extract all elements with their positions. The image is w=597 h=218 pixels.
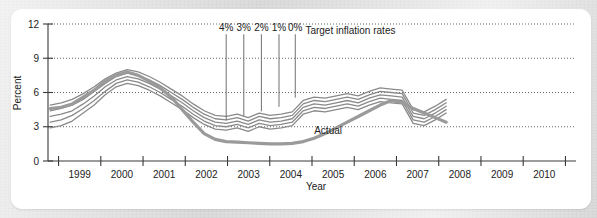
y-tick-label: 12 bbox=[28, 19, 40, 30]
y-tick-group: 036912 bbox=[28, 19, 53, 167]
y-tick-label: 0 bbox=[33, 156, 39, 167]
x-tick-label: 2003 bbox=[238, 169, 261, 180]
series-line-actual bbox=[50, 72, 446, 144]
target-marker-label: 4% bbox=[219, 22, 234, 33]
x-tick-label: 2002 bbox=[195, 169, 218, 180]
target-marker-label: 3% bbox=[237, 22, 252, 33]
x-tick-label: 2000 bbox=[111, 169, 134, 180]
y-tick-label: 6 bbox=[33, 87, 39, 98]
y-tick-label: 3 bbox=[33, 121, 39, 132]
target-marker-group: 4%3%2%1%0% bbox=[219, 22, 303, 120]
x-tick-label: 2004 bbox=[280, 169, 303, 180]
actual-label: Actual bbox=[314, 125, 342, 136]
x-tick-label: 2008 bbox=[449, 169, 472, 180]
target-marker-label: 1% bbox=[272, 22, 287, 33]
x-tick-label: 1999 bbox=[69, 169, 92, 180]
x-tick-label: 2005 bbox=[322, 169, 345, 180]
x-tick-group: 1999200020012002200320042005200620072008… bbox=[59, 156, 566, 180]
target-marker-label: 0% bbox=[288, 22, 303, 33]
x-tick-label: 2001 bbox=[153, 169, 176, 180]
series-group bbox=[50, 70, 446, 144]
y-axis-title: Percent bbox=[12, 76, 23, 111]
x-tick-label: 2007 bbox=[406, 169, 429, 180]
x-axis-title: Year bbox=[306, 181, 327, 192]
series-line-target-4- bbox=[50, 70, 446, 118]
x-tick-label: 2006 bbox=[364, 169, 387, 180]
target-marker-label: 2% bbox=[254, 22, 269, 33]
inflation-target-chart: 036912 199920002001200220032004200520062… bbox=[0, 0, 597, 218]
target-legend: Target inflation rates bbox=[305, 25, 395, 36]
y-tick-label: 9 bbox=[33, 53, 39, 64]
x-tick-label: 2010 bbox=[533, 169, 556, 180]
x-tick-label: 2009 bbox=[491, 169, 514, 180]
